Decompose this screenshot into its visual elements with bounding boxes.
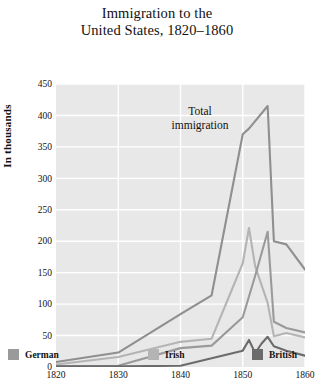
y-axis-tick-labels: 050100150200250300350400450: [18, 84, 52, 367]
legend-swatch-irish: [148, 349, 159, 360]
legend-item-irish: Irish: [148, 349, 185, 360]
legend-label-irish: Irish: [165, 350, 185, 360]
y-tick-50: 50: [43, 331, 53, 341]
legend-item-german: German: [8, 349, 59, 360]
chart-title-line-1: Immigration to the: [0, 5, 314, 22]
y-tick-400: 400: [38, 111, 52, 121]
y-tick-250: 250: [38, 205, 52, 215]
legend-item-british: British: [252, 349, 297, 360]
plot-area: [56, 84, 305, 367]
legend-label-british: British: [269, 350, 297, 360]
y-axis-label: In thousands: [1, 81, 13, 191]
chart-title-line-2: United States, 1820–1860: [0, 22, 314, 39]
legend-swatch-british: [252, 349, 263, 360]
y-tick-350: 350: [38, 142, 52, 152]
y-tick-300: 300: [38, 174, 52, 184]
y-tick-150: 150: [38, 268, 52, 278]
y-tick-450: 450: [38, 79, 52, 89]
y-tick-200: 200: [38, 236, 52, 246]
legend-swatch-german: [8, 349, 19, 360]
chart-title: Immigration to the United States, 1820–1…: [0, 0, 314, 39]
chart-svg: [56, 84, 305, 367]
chart-legend: GermanIrishBritish: [0, 345, 314, 375]
legend-label-german: German: [25, 350, 59, 360]
plot-region: In thousands 050100150200250300350400450…: [0, 39, 314, 345]
y-tick-100: 100: [38, 299, 52, 309]
